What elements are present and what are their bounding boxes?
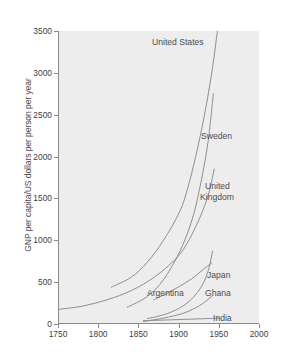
curve-united-states	[111, 31, 217, 287]
series-label-united-kingdom-line1: United	[205, 181, 230, 191]
x-tick-mark	[219, 324, 220, 328]
x-tick-label-1850: 1850	[115, 329, 161, 339]
curve-japan	[147, 251, 212, 318]
series-label-sweden: Sweden	[201, 131, 232, 141]
series-label-united-kingdom-line2: Kingdom	[200, 192, 234, 202]
curve-united-kingdom	[59, 169, 214, 309]
x-tick-label-1900: 1900	[156, 329, 202, 339]
x-tick-label-1750: 1750	[35, 329, 81, 339]
chart-figure: GNP per capita/US dollars per person per…	[0, 0, 294, 363]
y-tick-label-1000: 1000	[12, 235, 52, 245]
series-label-argentina: Argentina	[147, 288, 184, 298]
y-tick-label-0: 0	[12, 319, 52, 329]
series-label-japan: Japan	[207, 270, 230, 280]
y-tick-label-3000: 3000	[12, 68, 52, 78]
x-tick-label-1800: 1800	[75, 329, 121, 339]
y-tick-label-2500: 2500	[12, 110, 52, 120]
y-axis-title: GNP per capita/US dollars per person per…	[23, 45, 33, 285]
series-label-united-states: United States	[152, 37, 204, 47]
x-tick-mark	[138, 324, 139, 328]
x-tick-mark	[259, 324, 260, 328]
series-label-india: India	[213, 313, 232, 323]
x-tick-label-2000: 2000	[236, 329, 282, 339]
y-tick-label-1500: 1500	[12, 193, 52, 203]
x-tick-mark	[179, 324, 180, 328]
y-tick-label-3500: 3500	[12, 26, 52, 36]
x-tick-mark	[98, 324, 99, 328]
y-tick-label-2000: 2000	[12, 152, 52, 162]
series-label-ghana: Ghana	[205, 288, 231, 298]
x-tick-label-1950: 1950	[196, 329, 242, 339]
y-tick-label-500: 500	[12, 277, 52, 287]
x-tick-mark	[58, 324, 59, 328]
